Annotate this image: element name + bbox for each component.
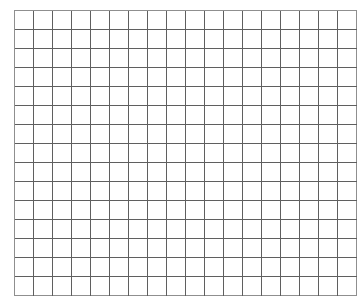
grid-cell[interactable]: [262, 277, 281, 296]
grid-cell[interactable]: [15, 11, 34, 30]
grid-cell[interactable]: [129, 87, 148, 106]
grid-cell[interactable]: [262, 239, 281, 258]
grid-cell[interactable]: [338, 30, 357, 49]
grid-cell[interactable]: [319, 220, 338, 239]
grid-cell[interactable]: [186, 125, 205, 144]
grid-cell[interactable]: [167, 258, 186, 277]
grid-cell[interactable]: [186, 239, 205, 258]
grid-cell[interactable]: [53, 144, 72, 163]
grid-cell[interactable]: [224, 182, 243, 201]
grid-cell[interactable]: [224, 258, 243, 277]
grid-cell[interactable]: [338, 258, 357, 277]
grid-cell[interactable]: [262, 182, 281, 201]
grid-cell[interactable]: [262, 49, 281, 68]
grid-cell[interactable]: [34, 30, 53, 49]
grid-cell[interactable]: [262, 106, 281, 125]
grid-cell[interactable]: [167, 11, 186, 30]
grid-cell[interactable]: [110, 144, 129, 163]
grid-cell[interactable]: [91, 220, 110, 239]
grid-cell[interactable]: [148, 239, 167, 258]
grid-cell[interactable]: [300, 258, 319, 277]
grid-cell[interactable]: [338, 163, 357, 182]
grid-cell[interactable]: [167, 239, 186, 258]
grid-cell[interactable]: [186, 87, 205, 106]
grid-cell[interactable]: [281, 277, 300, 296]
grid-cell[interactable]: [243, 277, 262, 296]
grid-cell[interactable]: [34, 220, 53, 239]
grid-cell[interactable]: [129, 182, 148, 201]
grid-cell[interactable]: [243, 220, 262, 239]
grid-cell[interactable]: [34, 201, 53, 220]
grid-cell[interactable]: [110, 163, 129, 182]
grid-cell[interactable]: [281, 201, 300, 220]
grid-cell[interactable]: [72, 239, 91, 258]
grid-cell[interactable]: [319, 30, 338, 49]
grid-cell[interactable]: [262, 30, 281, 49]
grid-cell[interactable]: [243, 144, 262, 163]
grid-cell[interactable]: [281, 258, 300, 277]
grid-cell[interactable]: [91, 258, 110, 277]
grid-cell[interactable]: [205, 144, 224, 163]
grid-cell[interactable]: [300, 182, 319, 201]
grid-cell[interactable]: [205, 11, 224, 30]
grid-cell[interactable]: [72, 68, 91, 87]
grid-cell[interactable]: [319, 106, 338, 125]
grid-cell[interactable]: [300, 125, 319, 144]
grid-cell[interactable]: [300, 30, 319, 49]
grid-cell[interactable]: [72, 87, 91, 106]
grid-cell[interactable]: [110, 277, 129, 296]
grid-cell[interactable]: [129, 258, 148, 277]
grid-cell[interactable]: [243, 125, 262, 144]
grid-cell[interactable]: [148, 106, 167, 125]
grid-cell[interactable]: [224, 201, 243, 220]
grid-cell[interactable]: [167, 201, 186, 220]
grid-cell[interactable]: [34, 144, 53, 163]
grid-cell[interactable]: [53, 30, 72, 49]
grid-cell[interactable]: [148, 277, 167, 296]
grid-cell[interactable]: [281, 49, 300, 68]
grid-cell[interactable]: [262, 87, 281, 106]
grid-cell[interactable]: [53, 106, 72, 125]
grid-cell[interactable]: [281, 239, 300, 258]
grid-cell[interactable]: [91, 182, 110, 201]
grid-cell[interactable]: [129, 125, 148, 144]
grid-cell[interactable]: [91, 125, 110, 144]
grid-cell[interactable]: [148, 201, 167, 220]
grid-cell[interactable]: [110, 220, 129, 239]
grid-cell[interactable]: [243, 49, 262, 68]
grid-cell[interactable]: [262, 11, 281, 30]
grid-cell[interactable]: [148, 68, 167, 87]
grid-cell[interactable]: [338, 144, 357, 163]
grid-cell[interactable]: [129, 163, 148, 182]
grid-cell[interactable]: [34, 182, 53, 201]
grid-cell[interactable]: [72, 49, 91, 68]
grid-cell[interactable]: [205, 163, 224, 182]
grid-cell[interactable]: [300, 163, 319, 182]
grid-cell[interactable]: [167, 144, 186, 163]
grid-cell[interactable]: [129, 201, 148, 220]
grid-cell[interactable]: [91, 163, 110, 182]
grid-cell[interactable]: [91, 68, 110, 87]
grid-cell[interactable]: [167, 182, 186, 201]
grid-cell[interactable]: [281, 68, 300, 87]
grid-cell[interactable]: [129, 106, 148, 125]
grid-cell[interactable]: [338, 11, 357, 30]
grid-cell[interactable]: [53, 49, 72, 68]
grid-cell[interactable]: [15, 87, 34, 106]
grid-cell[interactable]: [338, 182, 357, 201]
grid-cell[interactable]: [338, 277, 357, 296]
grid-cell[interactable]: [186, 11, 205, 30]
grid-cell[interactable]: [53, 201, 72, 220]
grid-cell[interactable]: [91, 239, 110, 258]
grid-cell[interactable]: [72, 106, 91, 125]
grid-cell[interactable]: [205, 68, 224, 87]
grid-cell[interactable]: [281, 87, 300, 106]
grid-cell[interactable]: [243, 182, 262, 201]
grid-cell[interactable]: [72, 277, 91, 296]
grid-cell[interactable]: [300, 106, 319, 125]
grid-cell[interactable]: [91, 49, 110, 68]
grid-cell[interactable]: [129, 11, 148, 30]
grid-cell[interactable]: [205, 201, 224, 220]
grid-cell[interactable]: [167, 68, 186, 87]
grid-cell[interactable]: [243, 201, 262, 220]
